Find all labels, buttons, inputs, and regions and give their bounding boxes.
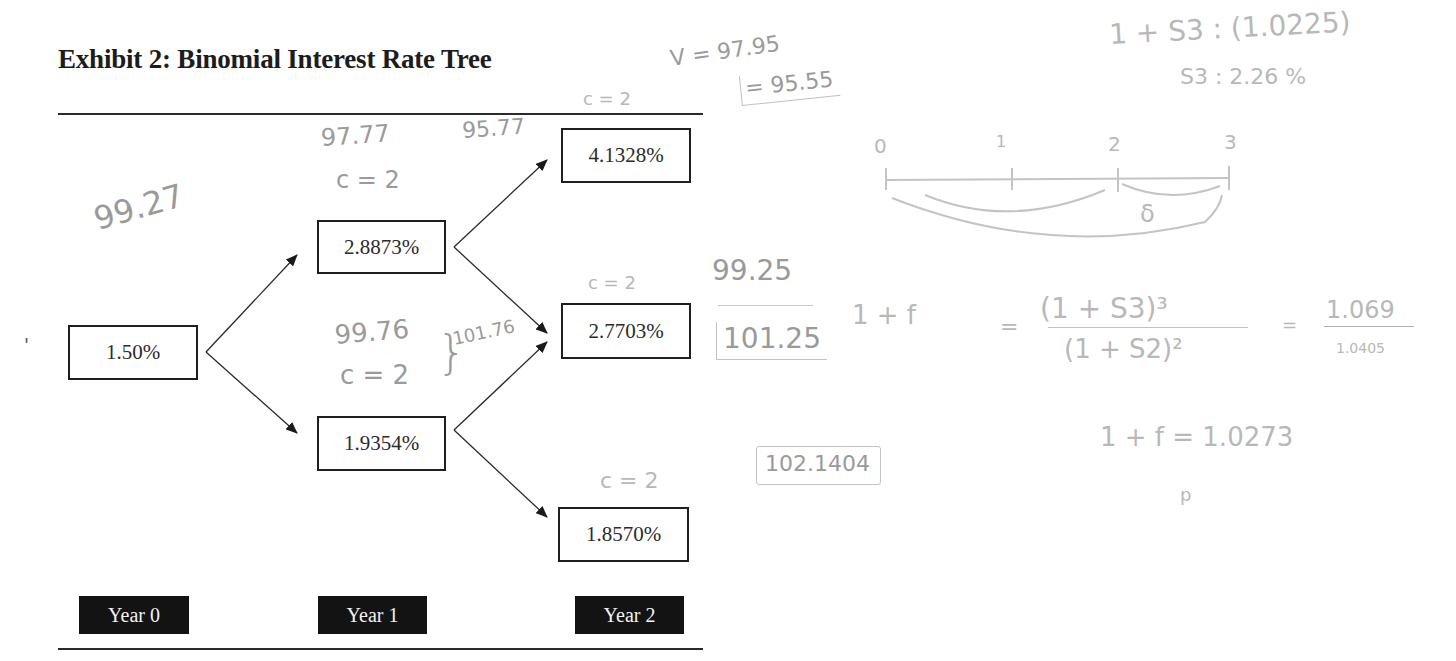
note-forward-equals: = <box>1000 314 1018 339</box>
note-forward-den: (1 + S2)² <box>1064 334 1183 364</box>
note-timeline-sketch <box>0 0 1456 661</box>
note-timeline-delta: δ <box>1140 200 1155 228</box>
note-timeline-1: 1 <box>996 132 1006 151</box>
note-timeline-3: 3 <box>1224 130 1237 154</box>
note-forward-num: (1 + S3)³ <box>1040 292 1168 325</box>
note-forward-lhs: 1 + f <box>852 300 916 330</box>
note-forward-ratio-eq: = <box>1282 314 1297 335</box>
note-forward-ratio-bar <box>1324 326 1414 327</box>
note-forward-result: 1 + f = 1.0273 <box>1100 422 1293 452</box>
note-forward-ratio-den: 1.0405 <box>1336 340 1385 356</box>
note-forward-fraction-bar <box>1048 327 1248 328</box>
note-stray-dot: ' <box>24 334 29 355</box>
note-forward-ratio-num: 1.069 <box>1326 296 1395 324</box>
note-stray-mark: p <box>1180 484 1191 505</box>
note-timeline-2: 2 <box>1108 132 1121 156</box>
note-timeline-0: 0 <box>874 134 887 158</box>
